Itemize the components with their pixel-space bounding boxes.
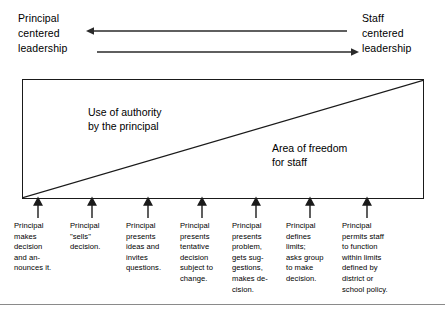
tick-arrow-6 (306, 198, 314, 218)
tick-arrow-4 (198, 198, 206, 218)
continuum-box (22, 79, 424, 199)
stage-label-2: Principal "sells" decision. (70, 221, 122, 253)
bottom-divider (0, 304, 445, 305)
stage-label-1: Principal makes decision and an- nounces… (14, 221, 66, 274)
stage-tick-arrows (0, 196, 445, 220)
stage-label-6: Principal defines limits; asks group to … (286, 221, 338, 285)
staff-centered-label: Staff centered leadership (362, 11, 411, 56)
principal-centered-label: Principal centered leadership (18, 11, 67, 56)
tick-arrow-7 (363, 198, 371, 218)
stage-label-5: Principal presents problem, gets sug- ge… (232, 221, 284, 295)
use-of-authority-label: Use of authority by the principal (88, 105, 162, 133)
stage-label-3: Principal presents ideas and invites que… (126, 221, 178, 274)
tick-arrow-2 (88, 198, 96, 218)
header-arrows (85, 22, 360, 58)
stage-label-7: Principal permits staff to function with… (342, 221, 404, 295)
tick-arrow-3 (144, 198, 152, 218)
stage-label-4: Principal presents tentative decision su… (180, 221, 232, 285)
arrow-to-principal-icon (86, 27, 347, 35)
leadership-continuum-figure: Principal centered leadership Staff cent… (0, 0, 445, 320)
tick-arrow-1 (34, 198, 42, 218)
stage-labels: Principal makes decision and an- nounces… (0, 221, 445, 301)
tick-arrow-5 (252, 198, 260, 218)
area-of-freedom-label: Area of freedom for staff (272, 141, 347, 169)
arrow-to-staff-icon (97, 48, 359, 56)
